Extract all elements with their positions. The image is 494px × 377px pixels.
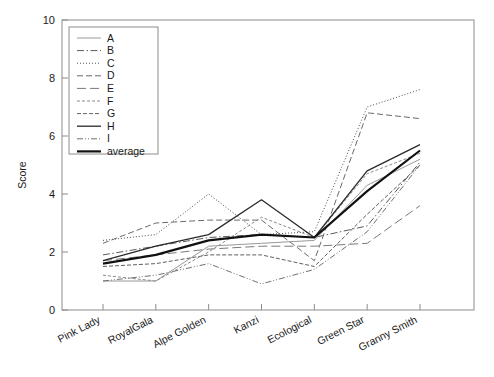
line-chart: 0246810 Score Pink LadyRoyalGalaAlpe Gol…	[0, 0, 494, 377]
y-axis-title: Score	[16, 161, 28, 189]
legend-label-F[interactable]: F	[107, 95, 113, 107]
x-tick-label: Ecological	[265, 313, 313, 345]
legend-label-E[interactable]: E	[107, 82, 114, 94]
legend-label-C[interactable]: C	[107, 57, 115, 69]
legend[interactable]: ABCDEFGHIaverage	[69, 27, 158, 157]
y-tick-label: 4	[49, 188, 55, 200]
x-tick-label: Granny Smith	[356, 313, 419, 353]
y-tick-label: 8	[49, 72, 55, 84]
x-tick-label: Alpe Golden	[151, 313, 208, 350]
legend-label-G[interactable]: G	[107, 107, 115, 119]
legend-label-B[interactable]: B	[107, 44, 114, 56]
y-tick-label: 10	[43, 14, 55, 26]
x-tick-label: RoyalGala	[106, 313, 155, 346]
x-axis: Pink LadyRoyalGalaAlpe GoldenKanziEcolog…	[55, 304, 420, 353]
series-line-G	[103, 165, 420, 267]
y-axis: 0246810	[43, 14, 68, 316]
legend-label-H[interactable]: H	[107, 120, 115, 132]
series-line-E	[103, 206, 420, 261]
y-tick-label: 0	[49, 304, 55, 316]
x-tick-label: Kanzi	[232, 313, 261, 336]
chart-container: 0246810 Score Pink LadyRoyalGalaAlpe Gol…	[0, 0, 494, 377]
series-line-B	[103, 162, 420, 255]
series-line-F	[103, 153, 420, 281]
legend-label-I[interactable]: I	[107, 132, 110, 144]
x-tick-label: Pink Lady	[55, 313, 102, 345]
legend-label-A[interactable]: A	[107, 32, 114, 44]
legend-label-average[interactable]: average	[107, 145, 145, 157]
legend-label-D[interactable]: D	[107, 69, 115, 81]
y-tick-label: 6	[49, 130, 55, 142]
y-tick-label: 2	[49, 246, 55, 258]
